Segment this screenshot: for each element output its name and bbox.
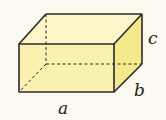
cuboid-figure: a b c <box>0 0 166 120</box>
label-a: a <box>58 98 68 118</box>
label-c: c <box>148 28 158 48</box>
box-diagram: a b c <box>0 0 166 120</box>
label-b: b <box>134 80 145 100</box>
front-face <box>19 44 114 92</box>
